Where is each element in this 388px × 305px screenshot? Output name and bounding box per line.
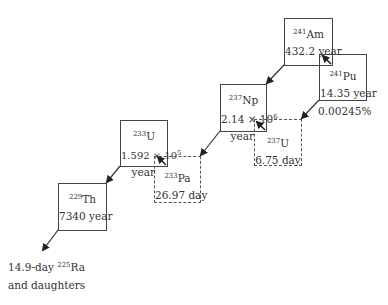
terminal-line-1: 14.9-day 225Ra (8, 256, 85, 276)
nuclide-box-th229: 229Th 7340 year (58, 183, 107, 231)
element-symbol: Th (82, 193, 96, 205)
nuclide-box-u237: 237U 6.75 day (254, 119, 302, 166)
arrow-pu241-to-u237 (302, 100, 319, 118)
nuclide-label: 237Np (221, 85, 266, 109)
half-life: 7340 year (59, 208, 106, 225)
arrow-am241-to-np237 (267, 65, 284, 83)
element-symbol: Am (306, 28, 324, 40)
mass-number: 241 (293, 28, 306, 36)
nuclide-label: 233Pa (155, 163, 200, 187)
element-symbol: Pu (343, 70, 357, 82)
nuclide-label: 241Am (285, 19, 332, 43)
mass-number: 229 (69, 193, 82, 201)
branch-ratio-label: 0.00245% (318, 102, 371, 120)
element-symbol: Ra (71, 261, 85, 273)
terminal-line-2: and daughters (8, 276, 85, 294)
terminal-products-label: 14.9-day 225Ra and daughters (8, 256, 85, 294)
mass-number: 241 (329, 70, 342, 78)
element-symbol: Np (242, 94, 258, 106)
nuclide-box-pu241: 241Pu 14.35 year (319, 54, 367, 101)
terminal-half-life: 14.9-day (8, 261, 57, 273)
half-life: 14.35 year (320, 85, 366, 102)
mass-number: 237 (229, 94, 242, 102)
mass-number: 233 (133, 130, 146, 138)
element-symbol: Pa (178, 172, 191, 184)
arrow-u233-to-th229 (107, 166, 120, 182)
nuclide-label: 237U (255, 128, 301, 152)
nuclide-label: 233U (121, 121, 167, 145)
mass-number: 237 (267, 137, 280, 145)
nuclide-box-pa233: 233Pa 26.97 day (154, 156, 201, 203)
half-life: 6.75 day (255, 152, 301, 169)
mass-number: 233 (164, 172, 177, 180)
mass-number: 225 (57, 261, 70, 269)
half-life: 26.97 day (155, 187, 200, 204)
arrow-th229-to-ra225 (43, 230, 58, 250)
nuclide-label: 229Th (59, 184, 106, 208)
element-symbol: U (280, 137, 289, 149)
nuclide-label: 241Pu (320, 61, 366, 85)
decay-chain-diagram: 241Am 432.2 year 241Pu 14.35 year 0.0024… (0, 0, 388, 305)
arrow-np237-to-pa233 (201, 131, 220, 155)
element-symbol: U (146, 130, 155, 142)
